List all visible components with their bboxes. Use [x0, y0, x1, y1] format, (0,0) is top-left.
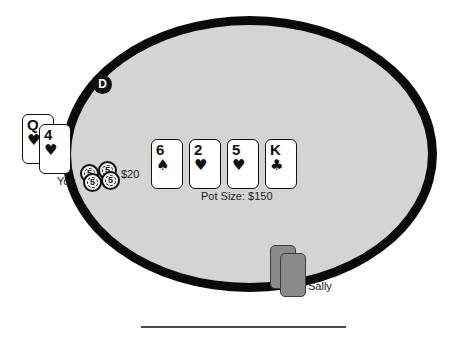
community-card-3: 5 ♥ [227, 139, 259, 189]
club-icon: ♣ [270, 157, 283, 173]
player-hole-card-2[interactable]: 4 ♥ [39, 124, 71, 174]
community-card-1: 6 ♠ [151, 139, 183, 189]
chip-stack-item: 5 [101, 171, 120, 190]
poker-table-scene: D Q ♥ 4 ♥ You 5 5 5 5 $20 6 ♠ 2 ♥ 5 ♥ K … [0, 0, 476, 344]
community-card-4: K ♣ [265, 139, 297, 189]
heart-icon: ♥ [232, 157, 245, 173]
heart-icon: ♥ [194, 157, 207, 173]
player-name-label: You [57, 175, 76, 187]
heart-icon: ♥ [44, 142, 57, 158]
spade-icon: ♠ [156, 157, 169, 173]
player-bet-amount: $20 [121, 168, 139, 180]
dealer-button: D [93, 75, 112, 94]
chip-stack-item: 5 [83, 173, 102, 192]
opponent-name-label: Sally [308, 280, 332, 292]
community-card-2: 2 ♥ [189, 139, 221, 189]
pot-size-label: Pot Size: $150 [201, 190, 273, 202]
bottom-divider [141, 326, 346, 328]
opponent-hole-card-back-2 [280, 253, 306, 297]
